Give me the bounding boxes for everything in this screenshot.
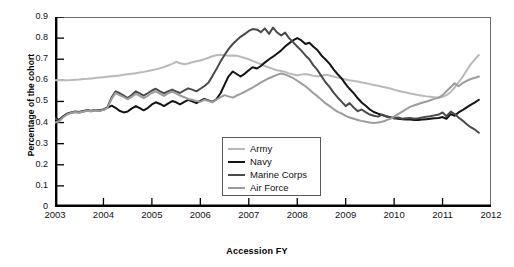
y-tick-label: 0.4 (18, 118, 48, 127)
x-tick-label: 2006 (180, 210, 220, 220)
x-tick-label: 2007 (229, 210, 269, 220)
x-tick-label: 2005 (132, 210, 172, 220)
x-tick-label: 2008 (277, 210, 317, 220)
y-tick-label: 0.9 (18, 12, 48, 21)
legend-item-navy[interactable]: Navy (228, 155, 320, 168)
x-tick-label: 2004 (83, 210, 123, 220)
x-tick-label: 2010 (374, 210, 414, 220)
x-axis-title: Accession FY (0, 246, 514, 256)
legend-swatch-icon (228, 174, 245, 176)
legend-swatch-icon (228, 148, 245, 150)
legend-label: Navy (250, 157, 272, 167)
series-line-air-force (55, 74, 479, 123)
legend-item-marine-corps[interactable]: Marine Corps (228, 168, 320, 181)
x-tick-label: 2003 (35, 210, 75, 220)
y-tick-label: 0.1 (18, 181, 48, 190)
x-tick-label: 2009 (326, 210, 366, 220)
y-tick-label: 0.5 (18, 96, 48, 105)
legend-label: Army (250, 144, 272, 154)
legend-swatch-icon (228, 161, 245, 163)
y-tick-label: 0.2 (18, 160, 48, 169)
y-tick-label: 0.8 (18, 33, 48, 42)
chart-legend: ArmyNavyMarine CorpsAir Force (222, 137, 321, 196)
legend-item-air-force[interactable]: Air Force (228, 181, 320, 194)
legend-label: Marine Corps (250, 170, 307, 180)
y-tick-label: 0.6 (18, 75, 48, 84)
y-tick-label: 0.3 (18, 139, 48, 148)
legend-swatch-icon (228, 187, 245, 189)
y-tick-label: 0.7 (18, 54, 48, 63)
legend-label: Air Force (250, 183, 289, 193)
legend-item-army[interactable]: Army (228, 142, 320, 155)
x-tick-label: 2012 (471, 210, 511, 220)
chart-figure: Percentage of the cohort Accession FY 00… (0, 0, 514, 267)
x-tick-label: 2011 (423, 210, 463, 220)
